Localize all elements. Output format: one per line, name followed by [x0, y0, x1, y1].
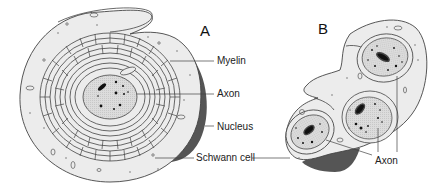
- panel-b: B Axon: [278, 20, 427, 172]
- axon-a: [83, 75, 137, 119]
- label-nucleus: Nucleus: [217, 121, 253, 132]
- panel-label-b: B: [318, 20, 328, 37]
- label-axon-b: Axon: [375, 155, 398, 166]
- panel-label-a: A: [200, 22, 210, 39]
- label-axon-a: Axon: [217, 88, 240, 99]
- label-schwann-cell: Schwann cell: [196, 152, 255, 163]
- axon-b2: [342, 91, 398, 143]
- panel-a: A Myelin Axon Nucleus Schwann cell: [20, 8, 290, 182]
- label-myelin: Myelin: [217, 55, 246, 66]
- nerve-fiber-diagram: A Myelin Axon Nucleus Schwann cell: [0, 0, 444, 189]
